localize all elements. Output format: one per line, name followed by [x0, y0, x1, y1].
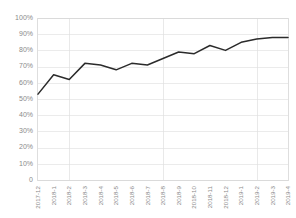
- x-axis-tick-label: 2018-9: [175, 185, 182, 205]
- y-axis-tick-label: 50%: [19, 95, 33, 102]
- y-axis-tick-label: 90%: [19, 30, 33, 37]
- chart-plot-area: 010%20%30%40%50%60%70%80%90%100% 2017-12…: [0, 0, 296, 218]
- x-axis-tick-label: 2018-11: [206, 185, 213, 208]
- data-series-line: [38, 37, 288, 94]
- y-axis-tick-label: 60%: [19, 79, 33, 86]
- y-axis-tick-label: 80%: [19, 46, 33, 53]
- x-axis-tick-label: 2018-7: [144, 185, 151, 205]
- x-axis-tick-label: 2019-2: [253, 185, 260, 205]
- y-axis-tick-label: 100%: [15, 14, 33, 21]
- x-axis-tick-label: 2018-1: [50, 185, 57, 205]
- y-axis-tick-label: 20%: [19, 143, 33, 150]
- x-axis-tick-label: 2018-6: [128, 185, 135, 205]
- x-axis-tick-labels: 2017-122018-12018-22018-32018-42018-5201…: [34, 185, 291, 208]
- x-axis-tick-label: 2017-12: [34, 185, 41, 208]
- y-axis-tick-labels: 010%20%30%40%50%60%70%80%90%100%: [15, 14, 33, 183]
- y-gridlines: [38, 19, 288, 181]
- x-axis-tick-label: 2018-10: [190, 185, 197, 208]
- y-axis-tick-label: 70%: [19, 62, 33, 69]
- y-axis-tick-label: 10%: [19, 160, 33, 167]
- x-axis-tick-label: 2019-3: [269, 185, 276, 205]
- x-axis-tick-label: 2018-12: [222, 185, 229, 208]
- line-chart: 010%20%30%40%50%60%70%80%90%100% 2017-12…: [0, 0, 296, 218]
- y-axis-tick-label: 30%: [19, 127, 33, 134]
- x-axis-tick-label: 2019-4: [284, 185, 291, 205]
- y-axis-tick-label: 40%: [19, 111, 33, 118]
- x-axis-tick-label: 2019-1: [237, 185, 244, 205]
- x-axis-tick-label: 2018-2: [65, 185, 72, 205]
- x-axis-tick-label: 2018-5: [112, 185, 119, 205]
- x-axis-tick-label: 2018-4: [97, 185, 104, 205]
- x-axis-tick-label: 2018-3: [81, 185, 88, 205]
- x-axis-tick-label: 2018-8: [159, 185, 166, 205]
- y-axis-tick-label: 0: [29, 176, 33, 183]
- x-gridlines: [70, 18, 258, 180]
